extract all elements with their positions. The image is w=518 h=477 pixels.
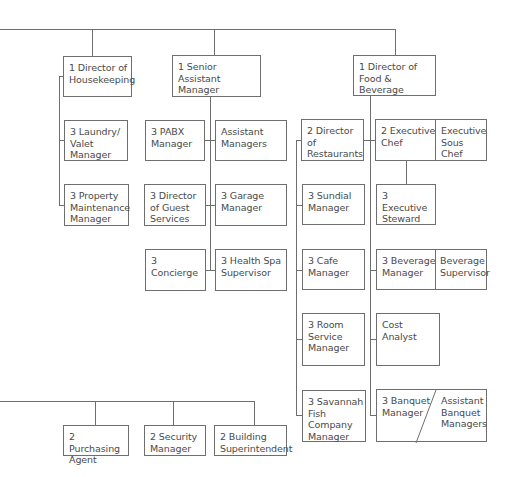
node-banquet-manager: 3 Banquet Manager Assistant Banquet Mana… — [376, 389, 487, 442]
assistant-banquet-managers-label: Assistant Banquet Managers — [441, 395, 487, 430]
banquet-manager-label: 3 Banquet Manager — [382, 395, 432, 418]
connector — [370, 95, 371, 416]
executive-sous-chef-label: Executive Sous Chef — [441, 125, 487, 160]
top-connector — [0, 29, 396, 30]
node-senior-assistant-manager: 1 Senior Assistant Manager — [172, 55, 261, 97]
node-garage-manager: 3 Garage Manager — [215, 184, 287, 226]
connector — [210, 96, 211, 270]
node-director-food-beverage: 1 Director of Food & Beverage — [353, 55, 436, 96]
connector — [406, 160, 407, 184]
node-director-restaurants: 2 Director of Restaurants — [301, 119, 364, 161]
connector — [205, 270, 215, 271]
node-beverage-manager: 3 Beverage Manager Beverage Supervisor — [376, 249, 487, 290]
node-savannah-fish-company-manager: 3 Savannah Fish Company Manager — [302, 390, 366, 442]
connector — [254, 401, 255, 425]
connector — [95, 401, 96, 425]
bottom-connector — [0, 401, 255, 402]
node-pabx-manager: 3 PABX Manager — [145, 120, 205, 161]
node-assistant-managers: Assistant Managers — [215, 120, 287, 161]
connector — [395, 29, 396, 55]
connector — [214, 29, 215, 55]
beverage-manager-label: 3 Beverage Manager — [382, 255, 437, 278]
executive-chef-label: 2 Executive Chef — [381, 125, 436, 148]
node-health-spa-supervisor: 3 Health Spa Supervisor — [215, 249, 287, 291]
divider — [435, 120, 436, 160]
node-cafe-manager: 3 Cafe Manager — [302, 249, 365, 290]
node-room-service-manager: 3 Room Service Manager — [302, 313, 365, 366]
node-building-superintendent: 2 Building Superintendent — [214, 425, 287, 456]
connector — [92, 29, 93, 56]
node-director-housekeeping: 1 Director of Housekeeping — [63, 56, 132, 97]
node-purchasing-agent: 2 Purchasing Agent — [63, 425, 129, 456]
node-director-guest-services: 3 Director of Guest Services — [144, 184, 206, 226]
node-executive-steward: 3 Executive Steward — [376, 184, 436, 225]
node-cost-analyst: Cost Analyst — [376, 313, 440, 366]
connector — [205, 205, 215, 206]
node-security-manager: 2 Security Manager — [144, 425, 206, 456]
connector — [204, 140, 215, 141]
connector — [296, 140, 297, 416]
divider — [435, 250, 436, 289]
connector — [363, 140, 375, 141]
node-concierge: 3 Concierge — [145, 249, 206, 291]
node-sundial-manager: 3 Sundial Manager — [302, 184, 365, 225]
beverage-supervisor-label: Beverage Supervisor — [440, 255, 488, 278]
node-property-maintenance-manager: 3 Property Maintenance Manager — [64, 184, 129, 226]
node-executive-chef: 2 Executive Chef Executive Sous Chef — [375, 119, 487, 161]
connector — [59, 76, 60, 206]
connector — [173, 401, 174, 425]
node-laundry-valet-manager: 3 Laundry/ Valet Manager — [64, 120, 128, 161]
